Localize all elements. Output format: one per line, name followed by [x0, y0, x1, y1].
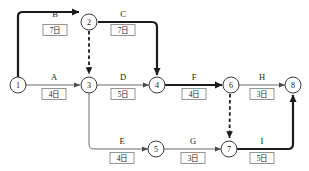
network-diagram-canvas: 1 2 3 4 5 6 7 8	[0, 0, 309, 171]
node-3[interactable]: 3	[81, 77, 97, 93]
activity-name: F	[192, 72, 197, 82]
node-4[interactable]: 4	[149, 77, 165, 93]
activity-label-g: G 3日	[181, 136, 205, 164]
node-5[interactable]: 5	[148, 141, 164, 157]
duration-text: 4日	[49, 90, 60, 99]
edge-activity-b	[18, 12, 79, 77]
node-label: 8	[291, 81, 295, 90]
duration-text: 5日	[118, 90, 129, 99]
node-label: 6	[229, 81, 233, 90]
node-label: 7	[227, 145, 231, 154]
duration-text: 4日	[117, 154, 128, 163]
node-label: 1	[16, 81, 20, 90]
edge-dummy-6-7	[230, 94, 231, 138]
network-diagram: 1 2 3 4 5 6 7 8	[0, 0, 309, 171]
activity-name: I	[261, 136, 264, 146]
activity-label-d: D 5日	[111, 72, 135, 100]
edge-activity-i	[237, 95, 293, 149]
node-7[interactable]: 7	[221, 141, 237, 157]
activity-label-a: A 4日	[42, 72, 66, 100]
duration-text: 5日	[257, 154, 268, 163]
activity-name: B	[52, 9, 58, 19]
node-label: 5	[154, 145, 158, 154]
node-label: 2	[87, 18, 91, 27]
node-label: 3	[87, 81, 91, 90]
activity-name: C	[120, 9, 126, 19]
activity-name: H	[259, 72, 265, 82]
activity-name: G	[190, 136, 196, 146]
node-8[interactable]: 8	[285, 77, 301, 93]
activity-name: A	[51, 72, 58, 82]
duration-text: 3日	[257, 90, 268, 99]
activity-label-e: E 4日	[110, 136, 134, 164]
activity-label-h: H 3日	[250, 72, 274, 100]
duration-text: 3日	[188, 154, 199, 163]
duration-text: 7日	[118, 26, 129, 35]
node-label: 4	[155, 81, 159, 90]
duration-text: 4日	[189, 90, 200, 99]
duration-text: 7日	[50, 26, 61, 35]
node-6[interactable]: 6	[223, 77, 239, 93]
activity-name: D	[120, 72, 126, 82]
node-2[interactable]: 2	[81, 14, 97, 30]
node-1[interactable]: 1	[10, 77, 26, 93]
activity-name: E	[119, 136, 124, 146]
